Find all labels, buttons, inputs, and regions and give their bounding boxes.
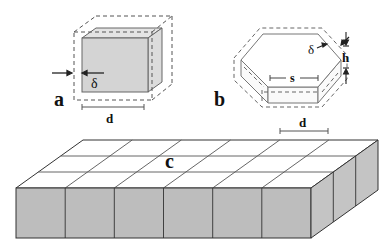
dimension-d-a [82,104,144,110]
panel-b: s δ h b [214,28,350,110]
dim-label-s: s [290,71,295,85]
diagram-canvas: δ a d [0,0,388,248]
panel-a: δ a d [52,16,172,126]
dim-label-h: h [342,50,350,65]
dim-label-d-c: d [299,115,307,130]
panel-label-a: a [54,88,64,110]
delta-symbol-a: δ [91,76,98,91]
panel-label-c: c [165,150,174,172]
dim-label-d-a: d [106,111,114,126]
delta-symbol-b: δ [308,42,314,57]
panel-label-b: b [214,88,225,110]
panel-c: d c [16,115,378,238]
